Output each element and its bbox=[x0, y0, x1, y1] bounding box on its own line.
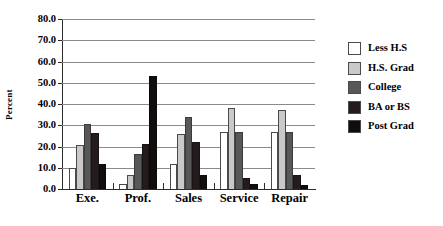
legend-item: BA or BS bbox=[348, 101, 414, 114]
bar bbox=[149, 76, 157, 189]
x-axis-tick-labels: Exe.Prof.SalesServiceRepair bbox=[62, 192, 315, 206]
bar bbox=[99, 164, 107, 189]
legend-swatch bbox=[348, 62, 361, 75]
bar-group bbox=[62, 19, 113, 189]
bar bbox=[200, 175, 208, 189]
bar bbox=[235, 132, 243, 189]
legend-item: H.S. Grad bbox=[348, 62, 414, 75]
bar-group bbox=[214, 19, 265, 189]
bar bbox=[301, 185, 309, 189]
y-tick-label: 70.0 bbox=[38, 35, 56, 46]
y-tick-label: 10.0 bbox=[38, 163, 56, 174]
legend-label: H.S. Grad bbox=[368, 63, 414, 74]
y-tick-label: 30.0 bbox=[38, 120, 56, 131]
bar-groups bbox=[62, 19, 315, 189]
bar bbox=[119, 184, 127, 189]
x-tick-label: Service bbox=[214, 192, 265, 206]
bar-group bbox=[163, 19, 214, 189]
bar bbox=[69, 168, 77, 189]
bar bbox=[76, 145, 84, 189]
y-tick-label: 80.0 bbox=[38, 14, 56, 25]
bar bbox=[185, 117, 193, 189]
bar bbox=[170, 164, 178, 189]
y-tick-label: 20.0 bbox=[38, 141, 56, 152]
legend-item: College bbox=[348, 81, 414, 94]
legend-label: Less H.S bbox=[368, 43, 407, 54]
bar bbox=[220, 132, 228, 189]
x-tick-label: Repair bbox=[264, 192, 315, 206]
legend: Less H.SH.S. GradCollegeBA or BSPost Gra… bbox=[348, 42, 414, 133]
legend-swatch bbox=[348, 120, 361, 133]
legend-item: Less H.S bbox=[348, 42, 414, 55]
bar bbox=[243, 178, 251, 189]
bar bbox=[192, 142, 200, 189]
legend-swatch bbox=[348, 81, 361, 94]
bar-group bbox=[113, 19, 164, 189]
bar bbox=[84, 124, 92, 189]
legend-item: Post Grad bbox=[348, 120, 414, 133]
y-tick-label: 0.0 bbox=[43, 184, 56, 195]
x-axis-line bbox=[62, 189, 316, 190]
y-tick-mark bbox=[58, 189, 62, 190]
legend-swatch bbox=[348, 101, 361, 114]
bar bbox=[278, 110, 286, 189]
legend-label: Post Grad bbox=[368, 121, 414, 132]
bar bbox=[293, 175, 301, 189]
bar-chart: Percent 0.010.020.030.040.050.060.070.08… bbox=[0, 0, 443, 226]
y-axis-title: Percent bbox=[2, 50, 16, 160]
bar bbox=[91, 133, 99, 189]
bar bbox=[250, 184, 258, 189]
legend-swatch bbox=[348, 42, 361, 55]
bar bbox=[142, 144, 150, 189]
x-tick-label: Sales bbox=[163, 192, 214, 206]
bar bbox=[134, 154, 142, 189]
x-tick-label: Prof. bbox=[113, 192, 164, 206]
bar bbox=[271, 132, 279, 189]
bar bbox=[286, 132, 294, 189]
legend-label: BA or BS bbox=[368, 102, 410, 113]
y-tick-label: 40.0 bbox=[38, 99, 56, 110]
bar-group bbox=[264, 19, 315, 189]
y-tick-label: 50.0 bbox=[38, 78, 56, 89]
y-tick-label: 60.0 bbox=[38, 56, 56, 67]
bar bbox=[228, 108, 236, 189]
legend-label: College bbox=[368, 82, 401, 93]
plot-area: 0.010.020.030.040.050.060.070.080.0 bbox=[62, 19, 315, 189]
bar bbox=[177, 134, 185, 189]
x-tick-label: Exe. bbox=[62, 192, 113, 206]
bar bbox=[127, 175, 135, 189]
